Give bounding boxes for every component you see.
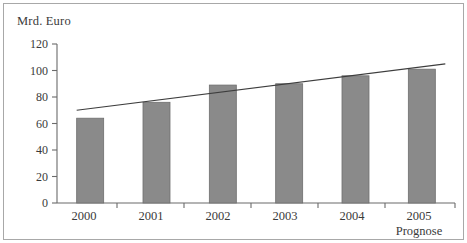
prognose-annotation: Prognose [396, 224, 443, 239]
bar-2000 [77, 118, 104, 203]
bar-2002 [209, 85, 236, 203]
chart-screenshot: Mrd. Euro 120 100 80 60 40 20 0 [0, 0, 467, 243]
x-axis [57, 203, 455, 208]
bar-2004 [342, 76, 369, 203]
x-tick-label-2000: 2000 [72, 209, 97, 224]
chart-plot-area [0, 0, 467, 243]
bar-2003 [276, 84, 303, 203]
x-tick-label-2004: 2004 [340, 209, 365, 224]
x-tick-label-2003: 2003 [273, 209, 298, 224]
x-tick-label-2001: 2001 [139, 209, 164, 224]
trend-line-segment [77, 64, 446, 110]
y-axis [52, 44, 57, 203]
bar-2005 [408, 69, 435, 203]
x-tick-label-2002: 2002 [206, 209, 231, 224]
bar-2001 [143, 102, 170, 203]
bar-series [77, 69, 436, 203]
x-tick-label-2005: 2005 [407, 209, 432, 224]
trend-line [77, 64, 446, 110]
